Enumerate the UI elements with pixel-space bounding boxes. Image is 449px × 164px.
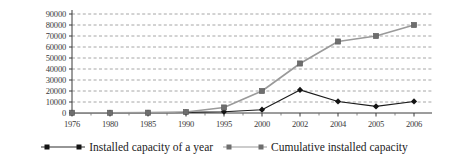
x-axis-tick-label: 1995 (216, 120, 232, 129)
x-axis-tick-label: 1990 (178, 120, 194, 129)
legend-marker-line-icon (223, 142, 267, 152)
x-axis-tick-label: 2002 (292, 120, 308, 129)
x-axis-tick-label: 2005 (368, 120, 384, 129)
x-axis-tick-label: 2006 (406, 120, 422, 129)
chart-legend: Installed capacity of a year Cumulative … (0, 136, 449, 158)
legend-label-series-2: Cumulative installed capacity (271, 141, 408, 153)
chart-container: 9000080000700006000050000400003000020000… (0, 0, 449, 164)
legend-marker-line-icon (41, 142, 85, 152)
x-axis-tick-label: 2000 (254, 120, 270, 129)
legend-entry-cumulative-installed-capacity: Cumulative installed capacity (223, 141, 408, 153)
legend-label-series-1: Installed capacity of a year (89, 141, 213, 153)
x-axis-tick-label: 2004 (330, 120, 346, 129)
x-axis-tick-label: 1985 (140, 120, 156, 129)
x-axis-tick-label: 1976 (64, 120, 80, 129)
legend-entry-installed-capacity-of-a-year: Installed capacity of a year (41, 141, 213, 153)
x-axis-tick-label: 1980 (102, 120, 118, 129)
